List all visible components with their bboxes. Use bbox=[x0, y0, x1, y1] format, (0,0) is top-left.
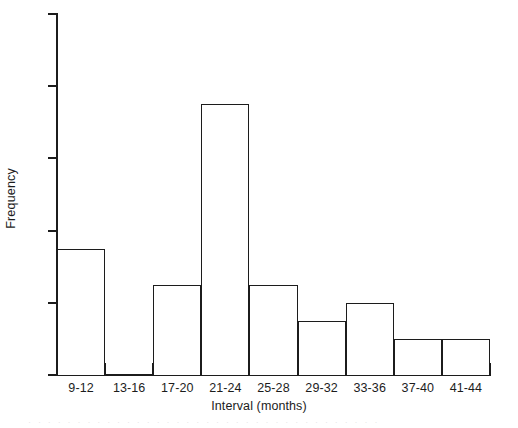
y-axis-tick-label-wrap: 16 bbox=[0, 85, 57, 87]
y-axis-tick-label-wrap: 4 bbox=[0, 302, 57, 304]
y-axis-tick-label-wrap: 20 bbox=[0, 13, 57, 15]
x-axis-tick-label: 21-24 bbox=[201, 381, 249, 395]
histogram-bar bbox=[442, 339, 490, 375]
x-axis-tick-label: 13-16 bbox=[105, 381, 153, 395]
histogram-bar bbox=[249, 285, 297, 375]
x-axis-tick-label: 29-32 bbox=[298, 381, 346, 395]
y-axis-title-text: Frequency bbox=[4, 168, 18, 229]
x-axis-tick bbox=[297, 363, 299, 376]
x-axis-tick bbox=[104, 363, 106, 376]
histogram-bar bbox=[201, 104, 249, 375]
scan-bleed-artifact: · · · · · · · · · · · · · · · · · · · · … bbox=[28, 417, 490, 424]
histogram-bar bbox=[153, 285, 201, 375]
histogram-chart: 48121620 9-1213-1617-2021-2425-2829-3233… bbox=[0, 0, 518, 428]
x-axis-tick bbox=[249, 363, 251, 376]
histogram-bar bbox=[346, 303, 394, 375]
x-axis-tick-label: 33-36 bbox=[346, 381, 394, 395]
plot-area bbox=[57, 14, 490, 375]
x-axis-tick bbox=[489, 363, 491, 376]
histogram-bar bbox=[394, 339, 442, 375]
x-axis-title: Interval (months) bbox=[0, 399, 518, 413]
x-axis-tick-label: 25-28 bbox=[249, 381, 297, 395]
x-axis-tick-label: 9-12 bbox=[57, 381, 105, 395]
y-axis-title: Frequency bbox=[4, 107, 18, 168]
x-axis-tick bbox=[152, 363, 154, 376]
x-axis-tick-label: 41-44 bbox=[442, 381, 490, 395]
x-axis-tick-label: 37-40 bbox=[394, 381, 442, 395]
x-axis-tick bbox=[56, 363, 58, 376]
x-axis-tick bbox=[393, 363, 395, 376]
x-axis-tick bbox=[201, 363, 203, 376]
histogram-bar bbox=[57, 249, 105, 375]
histogram-bar bbox=[298, 321, 346, 375]
y-axis-tick-label-wrap: 8 bbox=[0, 230, 57, 232]
x-axis-tick bbox=[345, 363, 347, 376]
x-axis-tick bbox=[441, 363, 443, 376]
x-axis-tick-label: 17-20 bbox=[153, 381, 201, 395]
